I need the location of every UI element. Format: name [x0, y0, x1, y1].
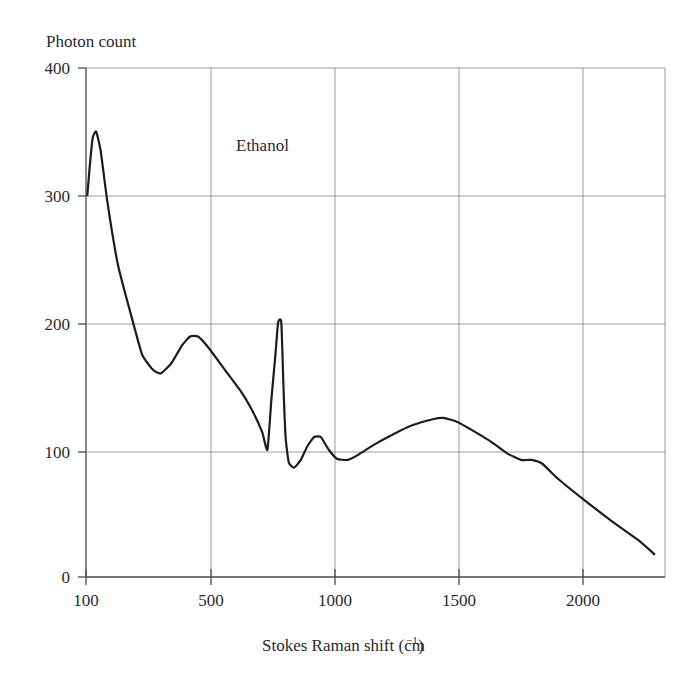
xtick-label-100: 100	[73, 591, 99, 610]
x-axis-title: Stokes Raman shift (cm −1 )	[262, 634, 425, 655]
y-axis-title: Photon count	[46, 32, 136, 51]
xtick-label-1500: 1500	[442, 591, 476, 610]
xtick-label-500: 500	[198, 591, 224, 610]
y-axis-ticks	[78, 68, 86, 577]
chart-canvas: 400 300 200 100 0 100 500 1000 1500 2000…	[0, 0, 697, 682]
xtick-label-1000: 1000	[318, 591, 352, 610]
ytick-label-400: 400	[45, 59, 71, 78]
plot-background	[86, 68, 665, 577]
x-axis-title-main: Stokes Raman shift (cm	[262, 636, 425, 655]
raman-spectrum-figure: 400 300 200 100 0 100 500 1000 1500 2000…	[0, 0, 697, 682]
xtick-label-2000: 2000	[566, 591, 600, 610]
ytick-label-200: 200	[45, 315, 71, 334]
series-annotation-ethanol: Ethanol	[236, 136, 289, 155]
ytick-label-100: 100	[45, 443, 71, 462]
ytick-label-300: 300	[45, 187, 71, 206]
x-axis-title-superscript: −1	[406, 634, 418, 646]
ytick-label-0: 0	[62, 568, 71, 587]
x-axis-title-close: )	[418, 636, 424, 655]
